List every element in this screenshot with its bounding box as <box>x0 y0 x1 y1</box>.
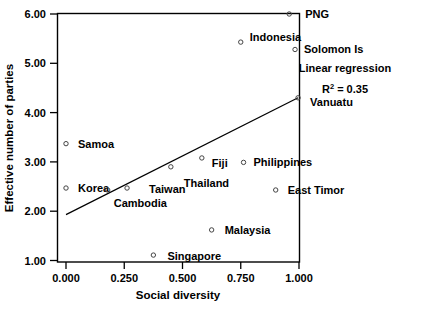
point-label: Cambodia <box>114 197 168 209</box>
data-points-group: PNGIndonesiaSolomon IsVanuatuSamoaFijiTh… <box>64 8 364 262</box>
point-label: Singapore <box>167 250 221 262</box>
point-marker <box>169 165 173 169</box>
y-tick-label: 3.00 <box>25 156 46 168</box>
y-tick-label: 5.00 <box>25 57 46 69</box>
x-tick-label: 0.000 <box>52 272 80 284</box>
chart-canvas: 0.0000.2500.5000.7501.000 1.002.003.004.… <box>0 0 440 311</box>
point-marker <box>209 228 213 232</box>
data-point-korea: Korea <box>64 182 110 194</box>
x-tick-label: 0.250 <box>110 272 138 284</box>
point-label: Fiji <box>212 157 228 169</box>
y-tick-label: 2.00 <box>25 205 46 217</box>
point-label: PNG <box>305 8 329 20</box>
data-point-samoa: Samoa <box>64 138 115 150</box>
point-marker <box>125 186 129 190</box>
point-marker <box>64 141 68 145</box>
data-point-east-timor: East Timor <box>274 184 346 196</box>
data-point-philippines: Philippines <box>241 156 312 168</box>
point-label: East Timor <box>288 184 345 196</box>
linear-regression-label: Linear regression <box>299 62 392 74</box>
point-label: Korea <box>78 182 110 194</box>
data-point-indonesia: Indonesia <box>239 31 302 44</box>
y-axis-ticks: 1.002.003.004.005.006.00 <box>25 8 57 267</box>
r-squared-annotation: R2= 0.35 <box>322 82 368 95</box>
y-tick-label: 1.00 <box>25 255 46 267</box>
scatter-chart-figure: 0.0000.2500.5000.7501.000 1.002.003.004.… <box>0 0 440 311</box>
data-point-fiji: Fiji <box>200 156 228 169</box>
data-point-taiwan: Taiwan <box>125 183 186 195</box>
data-point-singapore: Singapore <box>151 250 221 262</box>
point-label: Taiwan <box>149 183 186 195</box>
regression-annotation: Linear regression R2= 0.35 <box>299 62 392 95</box>
point-label: Vanuatu <box>310 96 353 108</box>
x-axis-ticks: 0.0000.2500.5000.7501.000 <box>52 262 313 284</box>
x-tick-label: 1.000 <box>285 272 313 284</box>
y-tick-label: 6.00 <box>25 8 46 20</box>
data-point-malaysia: Malaysia <box>209 224 271 236</box>
r-symbol: R <box>322 83 330 95</box>
r-superscript: 2 <box>330 82 334 91</box>
point-marker <box>200 156 204 160</box>
point-label: Philippines <box>254 156 313 168</box>
point-marker <box>293 47 297 51</box>
point-label: Samoa <box>78 138 115 150</box>
point-marker <box>151 253 155 257</box>
point-label: Malaysia <box>225 224 272 236</box>
data-point-solomon-is: Solomon Is <box>293 43 363 55</box>
x-tick-label: 0.750 <box>227 272 255 284</box>
point-marker <box>239 40 243 44</box>
x-tick-label: 0.500 <box>169 272 197 284</box>
point-marker <box>274 188 278 192</box>
r-squared-value: = 0.35 <box>337 83 368 95</box>
point-marker <box>241 160 245 164</box>
y-tick-label: 4.00 <box>25 107 46 119</box>
data-point-vanuatu: Vanuatu <box>296 96 353 108</box>
point-label: Thailand <box>184 177 229 189</box>
point-label: Solomon Is <box>304 43 363 55</box>
x-axis-title: Social diversity <box>136 289 221 301</box>
point-label: Indonesia <box>250 31 302 43</box>
point-marker <box>64 186 68 190</box>
y-axis-title: Effective number of parties <box>3 64 15 212</box>
